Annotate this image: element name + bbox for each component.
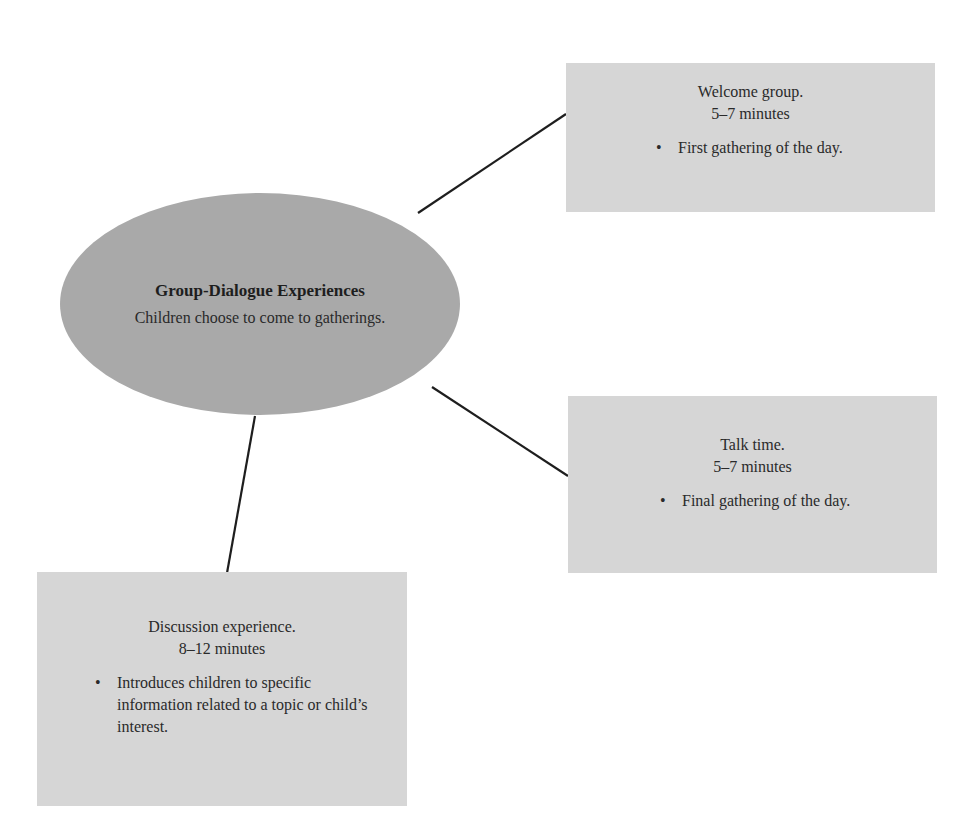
node-bullet-list: • First gathering of the day. xyxy=(566,137,935,159)
bullet-icon: • xyxy=(656,137,678,159)
bullet-text: Introduces children to specific informat… xyxy=(117,672,387,738)
node-duration: 5–7 minutes xyxy=(568,456,937,478)
hub-title: Group-Dialogue Experiences xyxy=(155,281,365,301)
node-bullet-list: • Final gathering of the day. xyxy=(568,490,937,512)
node-title: Discussion experience. xyxy=(37,616,407,638)
node-title: Talk time. xyxy=(568,434,937,456)
bullet-icon: • xyxy=(95,672,117,694)
hub-ellipse: Group-Dialogue Experiences Children choo… xyxy=(60,193,460,415)
node-bullet-list: • Introduces children to specific inform… xyxy=(37,672,407,738)
bullet-text: First gathering of the day. xyxy=(678,137,843,159)
connector-hub-to-discussion xyxy=(227,416,255,573)
bullet-icon: • xyxy=(660,490,682,512)
list-item: • First gathering of the day. xyxy=(656,137,935,159)
hub-subtitle: Children choose to come to gatherings. xyxy=(135,309,386,327)
connector-hub-to-welcome xyxy=(418,114,566,213)
list-item: • Final gathering of the day. xyxy=(660,490,937,512)
bullet-text: Final gathering of the day. xyxy=(682,490,850,512)
node-talk-time: Talk time. 5–7 minutes • Final gathering… xyxy=(568,396,937,573)
node-duration: 8–12 minutes xyxy=(37,638,407,660)
node-title: Welcome group. xyxy=(566,81,935,103)
list-item: • Introduces children to specific inform… xyxy=(95,672,387,738)
node-welcome-group: Welcome group. 5–7 minutes • First gathe… xyxy=(566,63,935,212)
node-discussion-experience: Discussion experience. 8–12 minutes • In… xyxy=(37,572,407,806)
node-duration: 5–7 minutes xyxy=(566,103,935,125)
connector-hub-to-talk xyxy=(432,387,568,476)
